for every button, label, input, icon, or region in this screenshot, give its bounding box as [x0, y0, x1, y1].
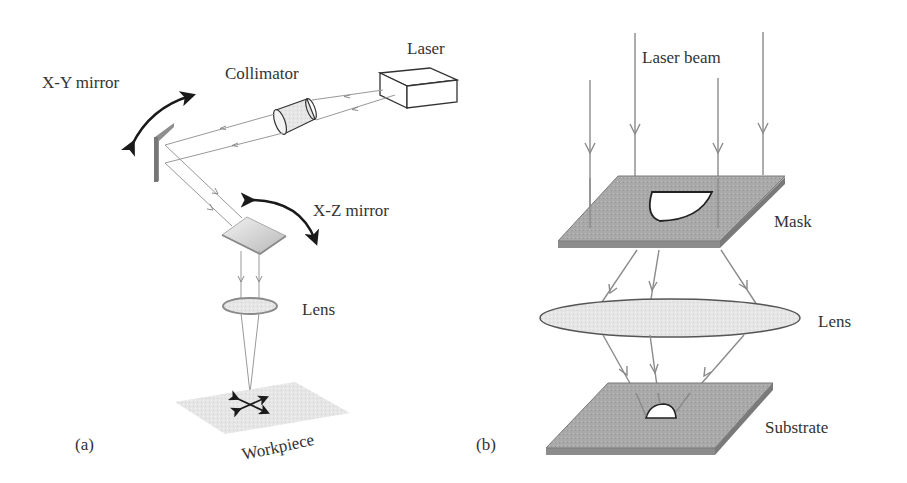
collimator-label: Collimator	[225, 64, 299, 83]
panel-a: Laser Collimator X-Y mirror	[42, 39, 457, 464]
panel-b: Laser beam Mask Lens	[476, 32, 851, 455]
beam-segment	[600, 250, 637, 305]
beam-segment	[721, 250, 757, 305]
mask-label: Mask	[774, 212, 812, 231]
collimator-icon	[271, 97, 319, 136]
xz-mirror-icon	[222, 217, 286, 254]
workpiece-icon	[175, 382, 350, 434]
lens-icon	[540, 299, 800, 337]
beam-segment	[165, 133, 283, 163]
beam-segment	[165, 163, 232, 226]
beam-segment	[241, 313, 250, 393]
laser-processing-diagram: Laser Collimator X-Y mirror	[0, 0, 907, 483]
laser-source-icon	[380, 68, 457, 108]
xz-mirror-label: X-Z mirror	[313, 201, 389, 220]
panel-b-label: (b)	[476, 435, 496, 454]
beam-segment	[312, 90, 383, 100]
beam-segment	[165, 114, 275, 145]
laser-label: Laser	[407, 39, 445, 58]
panel-a-label: (a)	[75, 435, 94, 454]
beam-segment	[650, 250, 659, 305]
xy-mirror-icon	[154, 123, 174, 182]
laser-beam-label: Laser beam	[642, 48, 721, 67]
beam-segment	[250, 313, 259, 393]
lens-b-label: Lens	[818, 312, 851, 331]
substrate-label: Substrate	[765, 418, 828, 437]
lens-icon	[223, 298, 277, 314]
beam-segment	[165, 145, 242, 218]
mask-plate-icon	[558, 176, 785, 248]
substrate-plate-icon	[546, 383, 773, 455]
workpiece-label: Workpiece	[240, 430, 316, 464]
xy-mirror-label: X-Y mirror	[42, 73, 120, 92]
lens-a-label: Lens	[302, 300, 335, 319]
